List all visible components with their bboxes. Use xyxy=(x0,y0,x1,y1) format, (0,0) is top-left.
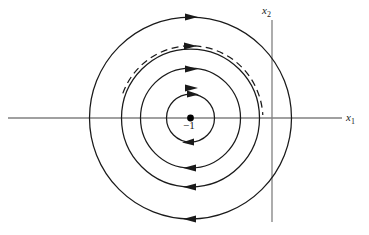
orbit-outermost-arrow-top xyxy=(185,14,198,21)
phase-portrait-canvas xyxy=(0,0,369,235)
orbit-second-arrow-bottom xyxy=(183,165,196,172)
orbit-outermost-arrow-bottom xyxy=(183,216,196,223)
orbit-third-arrow-top xyxy=(185,66,198,73)
equilibrium-point-label: −1 xyxy=(183,119,195,131)
x1-axis-label: x1 xyxy=(346,111,355,126)
orbit-second-arrow-top xyxy=(185,85,198,92)
orbit-innermost-arrow-top xyxy=(187,91,199,98)
phase-portrait-figure: x2 x1 −1 xyxy=(0,0,369,235)
orbit-third-arrow-bottom xyxy=(183,184,196,191)
x2-axis-label-subscript: 2 xyxy=(267,10,271,19)
orbit-innermost-arrow-bottom xyxy=(182,139,194,146)
orbit-dashed xyxy=(123,46,263,115)
x2-axis-label: x2 xyxy=(262,4,271,19)
x1-axis-label-subscript: 1 xyxy=(351,117,355,126)
